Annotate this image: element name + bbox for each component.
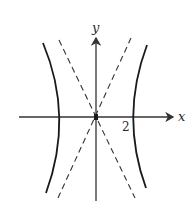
y-axis-label: y [91,20,100,35]
hyperbola-left-branch [43,43,59,193]
tick-label-2: 2 [122,120,130,134]
hyperbola-figure: y x 2 [0,0,186,203]
origin-marker [94,114,98,120]
x-axis-label: x [178,109,186,124]
